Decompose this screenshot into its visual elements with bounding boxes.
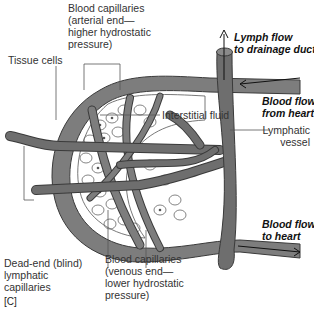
label-lymph-flow: Lymph flow to drainage ducts [234,31,314,55]
label-interstitial-fluid: Interstitial fluid [162,109,229,121]
label-blood-to-heart: Blood flow to heart [262,218,314,242]
label-blood-capillaries-arterial: Blood capillaries (arterial end— higher … [68,2,151,50]
panel-tag: [C] [4,296,17,307]
label-tissue-cells: Tissue cells [8,54,62,66]
label-blood-capillaries-venous: Blood capillaries (venous end— lower hyd… [105,253,184,301]
label-blood-from-heart: Blood flow from heart [262,95,314,119]
label-lymphatic-vessel: Lymphatic vessel [254,124,310,148]
label-dead-end-lymphatic-capillaries: Dead-end (blind) lymphatic capillaries [4,257,82,293]
